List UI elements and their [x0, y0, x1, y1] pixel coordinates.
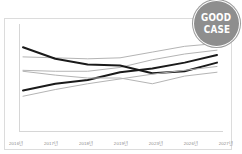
x-tick-4: 2023년: [149, 142, 163, 146]
x-tick-6: 2027년: [219, 142, 233, 146]
x-tick-5: 2026년: [184, 142, 198, 146]
x-tick-0: 2016년: [9, 142, 23, 146]
series-group: [23, 43, 217, 96]
x-tick-3: 2019년: [114, 142, 128, 146]
series-line-0: [23, 43, 217, 58]
badge-line-good: GOOD: [201, 13, 231, 23]
x-tick-1: 2017년: [44, 142, 58, 146]
x-tick-2: 2018년: [79, 142, 93, 146]
line-chart-svg: [19, 24, 223, 132]
series-line-3: [23, 55, 217, 91]
good-case-badge: GOOD CASE: [194, 1, 239, 46]
series-line-2: [23, 47, 217, 73]
badge-line-case: CASE: [203, 25, 229, 35]
x-axis-tick-labels: 2016년 2017년 2018년 2019년 2023년 2026년 2027…: [9, 139, 233, 150]
series-line-1: [23, 50, 217, 71]
plot-area: [19, 24, 223, 132]
chart-card: 2016년 2017년 2018년 2019년 2023년 2026년 2027…: [4, 18, 232, 150]
